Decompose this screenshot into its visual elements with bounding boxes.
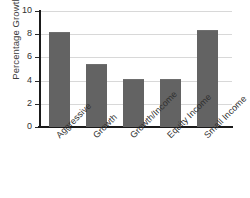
y-axis-tick-label: 4 (10, 76, 32, 85)
bar (86, 64, 107, 127)
gridline (41, 11, 232, 12)
bar-chart-figure: Percentage Growth 0246810 AggressiveGrow… (0, 0, 250, 198)
y-axis-tick-label: 0 (10, 122, 32, 131)
y-axis-tick-label: 8 (10, 29, 32, 38)
bar (197, 30, 218, 127)
y-axis-tick-label: 2 (10, 99, 32, 108)
bar (49, 32, 70, 127)
y-axis-tick-label: 6 (10, 52, 32, 61)
y-axis-tick-label: 10 (10, 6, 32, 15)
